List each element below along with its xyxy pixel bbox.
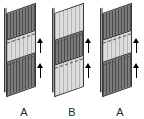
arrow-2-upper-up bbox=[84, 38, 93, 53]
panel-label-2: B bbox=[48, 106, 96, 118]
panel-stack-2 bbox=[48, 0, 96, 95]
arrow-head-up-icon bbox=[133, 63, 139, 68]
arrow-head-up-icon bbox=[133, 38, 139, 43]
panel-group-3: A bbox=[96, 0, 144, 119]
arrow-head-up-icon bbox=[85, 63, 91, 68]
slab-3 bbox=[102, 3, 132, 97]
panel-label-1: A bbox=[0, 106, 48, 118]
arrow-head-up-icon bbox=[37, 38, 43, 43]
panel-group-2: B bbox=[48, 0, 96, 119]
panel-group-1: A bbox=[0, 0, 48, 119]
slab-1 bbox=[6, 3, 36, 97]
panel-stack-3 bbox=[96, 0, 144, 95]
arrow-head-up-icon bbox=[37, 63, 43, 68]
slab-2 bbox=[54, 3, 84, 97]
arrow-2-lower-up bbox=[84, 63, 93, 78]
arrow-head-up-icon bbox=[85, 38, 91, 43]
arrow-1-upper-up bbox=[36, 38, 45, 53]
arrow-3-lower-up bbox=[132, 63, 141, 78]
panel-diagram-figure: A B bbox=[0, 0, 144, 119]
arrow-1-lower-up bbox=[36, 63, 45, 78]
panel-stack-1 bbox=[0, 0, 48, 95]
arrow-3-upper-up bbox=[132, 38, 141, 53]
panel-label-3: A bbox=[96, 106, 144, 118]
